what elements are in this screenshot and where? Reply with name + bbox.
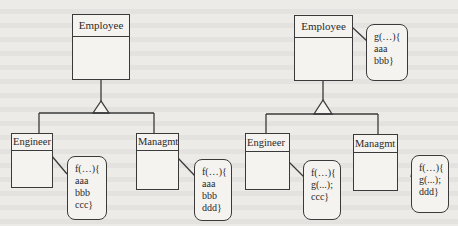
class-name: Employee: [295, 16, 352, 38]
managmt-class-right: Managmt: [353, 134, 398, 191]
note-line: aaa: [374, 43, 407, 55]
employee-class-left: Employee: [72, 14, 130, 80]
note-line: f(…){: [75, 163, 106, 175]
note-line: g(...);: [419, 174, 448, 186]
note-line: f(…){: [419, 162, 448, 174]
note-line: bbb}: [374, 55, 407, 67]
note-line: aaa: [75, 175, 106, 187]
note-line: ccc}: [75, 199, 106, 211]
employee-method-note-right: g(…){ aaa bbb}: [366, 24, 408, 81]
class-name: Engineer: [12, 134, 52, 151]
note-line: f(…){: [202, 166, 231, 178]
class-name: Employee: [73, 15, 129, 37]
note-line: aaa: [202, 178, 231, 190]
class-name: Managmt: [354, 135, 397, 153]
note-line: f(…){: [311, 167, 340, 179]
engineer-method-note-right: f(…){ g(...); ccc}: [303, 160, 341, 220]
engineer-class-left: Engineer: [11, 133, 53, 188]
managmt-method-note-left: f(…){ aaa bbb ddd}: [194, 159, 232, 221]
managmt-method-note-right: f(…){ g(...); ddd}: [411, 155, 449, 213]
note-line: bbb: [202, 190, 231, 202]
engineer-method-note-left: f(…){ aaa bbb ccc}: [67, 156, 107, 220]
note-line: bbb: [75, 187, 106, 199]
note-line: ddd}: [202, 202, 231, 214]
class-name: Managmt: [137, 134, 178, 151]
note-line: g(...);: [311, 179, 340, 191]
note-line: ccc}: [311, 191, 340, 203]
managmt-class-left: Managmt: [136, 133, 179, 190]
note-line: g(…){: [374, 31, 407, 43]
engineer-class-right: Engineer: [245, 133, 290, 190]
employee-class-right: Employee: [294, 15, 353, 81]
class-name: Engineer: [246, 134, 289, 152]
note-line: ddd}: [419, 186, 448, 198]
